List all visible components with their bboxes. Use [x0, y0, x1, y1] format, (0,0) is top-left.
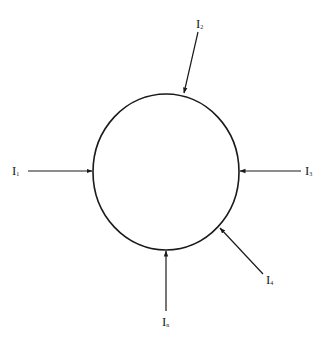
- current-label-lower-right: I4: [266, 273, 273, 286]
- label-subscript: 3: [309, 171, 312, 177]
- current-label-right: I3: [305, 164, 312, 177]
- current-arrow-top: [184, 32, 198, 93]
- node-circle: [93, 94, 239, 250]
- current-label-top: I2: [196, 17, 203, 30]
- label-subscript: 1: [16, 171, 19, 177]
- label-subscript: 2: [200, 24, 203, 30]
- label-subscript: 4: [270, 280, 273, 286]
- current-label-left: I1: [12, 164, 19, 177]
- current-label-bottom: In: [162, 315, 169, 328]
- kirchhoff-node-diagram: [0, 0, 327, 343]
- current-arrow-lower-right: [220, 228, 263, 274]
- label-subscript: n: [166, 322, 169, 328]
